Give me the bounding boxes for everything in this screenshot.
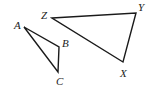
vertex-label-b: B (62, 37, 69, 49)
triangle-abc (24, 27, 59, 72)
vertex-label-c: C (56, 75, 64, 87)
vertex-label-z: Z (41, 9, 48, 21)
vertex-label-x: X (119, 67, 128, 79)
vertex-label-a: A (13, 19, 21, 31)
vertex-label-y: Y (138, 1, 146, 13)
triangle-diagram: A B C Z Y X (0, 0, 150, 89)
